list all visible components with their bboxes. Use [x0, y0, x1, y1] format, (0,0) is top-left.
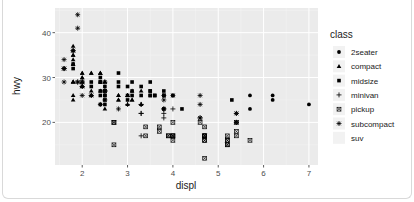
point-midsize: [130, 94, 134, 98]
legend-label: suv: [351, 134, 363, 143]
point-midsize: [126, 85, 130, 89]
point-midsize: [148, 89, 152, 93]
point-midsize: [99, 94, 103, 98]
legend-label: minivan: [351, 91, 379, 100]
x-tick-label: 3: [125, 169, 130, 178]
scatter-chart: 234567 203040 displ hwy class 2seatercom…: [0, 0, 414, 202]
point-subcompact: [116, 106, 121, 111]
y-tick-label: 40: [42, 29, 51, 38]
point-midsize: [230, 98, 234, 102]
point-subcompact: [80, 80, 85, 85]
point-midsize: [103, 85, 107, 89]
point-midsize: [71, 67, 75, 71]
point-subcompact: [198, 102, 203, 107]
point-midsize: [117, 71, 121, 75]
point-subcompact: [102, 88, 107, 93]
point-subcompact: [170, 93, 175, 98]
point-subcompact: [161, 97, 166, 102]
legend-key-background: [333, 132, 345, 144]
legend-label: subcompact: [351, 120, 395, 129]
point-2seater: [307, 103, 311, 107]
x-tick-label: 2: [80, 169, 85, 178]
point-midsize: [117, 85, 121, 89]
point-midsize: [99, 89, 103, 93]
point-midsize: [180, 107, 184, 111]
legend-label: 2seater: [351, 48, 378, 57]
legend-label: midsize: [351, 77, 379, 86]
point-subcompact: [62, 66, 67, 71]
point-midsize: [89, 80, 93, 84]
y-axis-title: hwy: [11, 77, 22, 95]
point-midsize: [139, 94, 143, 98]
point-subcompact: [234, 120, 239, 125]
point-midsize: [148, 94, 152, 98]
x-tick-label: 4: [171, 169, 176, 178]
x-axis-title: displ: [176, 180, 197, 191]
point-subcompact: [234, 111, 239, 116]
point-subcompact: [161, 93, 166, 98]
point-subcompact: [89, 93, 94, 98]
point-2seater: [271, 94, 275, 98]
point-subcompact: [75, 80, 80, 85]
point-midsize: [99, 80, 103, 84]
point-midsize: [153, 94, 157, 98]
point-subcompact: [80, 93, 85, 98]
point-midsize: [103, 103, 107, 107]
x-tick-label: 7: [307, 169, 312, 178]
point-midsize: [139, 85, 143, 89]
point-midsize: [130, 80, 134, 84]
legend-title: class: [330, 29, 353, 40]
point-midsize: [162, 89, 166, 93]
point-subcompact: [75, 26, 80, 31]
x-tick-label: 6: [261, 169, 266, 178]
legend: 2seatercompactmidsizeminivanpickupsubcom…: [333, 46, 395, 144]
point-subcompact: [80, 84, 85, 89]
point-subcompact: [102, 97, 107, 102]
point-subcompact: [198, 115, 203, 120]
point-midsize: [117, 80, 121, 84]
point-2seater: [271, 98, 275, 102]
point-midsize: [71, 62, 75, 66]
point-subcompact: [62, 57, 67, 62]
x-axis: 234567: [80, 165, 312, 178]
legend-label: pickup: [351, 105, 375, 114]
point-subcompact: [75, 12, 80, 17]
point-subcompact: [71, 48, 76, 53]
legend-key-midsize: [337, 79, 341, 83]
point-subcompact: [102, 80, 107, 85]
legend-key-subcompact: [337, 121, 342, 126]
y-tick-label: 20: [42, 118, 51, 127]
y-axis: 203040: [42, 29, 55, 128]
legend-key-2seater: [337, 50, 341, 54]
point-midsize: [103, 94, 107, 98]
point-midsize: [130, 89, 134, 93]
x-tick-label: 5: [216, 169, 221, 178]
point-2seater: [248, 107, 252, 111]
y-tick-label: 30: [42, 74, 51, 83]
point-midsize: [148, 80, 152, 84]
point-midsize: [126, 94, 130, 98]
legend-label: compact: [351, 62, 382, 71]
point-subcompact: [161, 106, 166, 111]
point-subcompact: [198, 93, 203, 98]
point-midsize: [89, 85, 93, 89]
point-midsize: [99, 76, 103, 80]
point-2seater: [248, 94, 252, 98]
plot-panel: [55, 8, 318, 165]
point-subcompact: [62, 80, 67, 85]
point-midsize: [126, 98, 130, 102]
